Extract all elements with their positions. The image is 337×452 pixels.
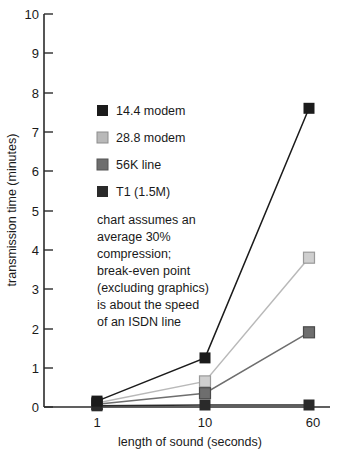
y-tick-label: 10 <box>25 7 39 22</box>
legend-swatch-t1-1-5m <box>97 186 108 197</box>
legend-swatch-14-4-modem <box>97 105 108 116</box>
note-line: compression; <box>97 247 171 261</box>
chart-canvas: 10 9 8 7 6 5 4 3 2 1 0 transmission time… <box>0 0 337 452</box>
note-line: average 30% <box>97 230 171 244</box>
legend-swatch-28-8-modem <box>97 132 108 143</box>
y-tick-label: 7 <box>32 125 39 140</box>
note-line: is about the speed <box>97 298 199 312</box>
data-point-marker <box>92 396 103 407</box>
data-point-marker <box>304 400 315 411</box>
y-axis-ticks <box>44 14 53 407</box>
transmission-time-chart: 10 9 8 7 6 5 4 3 2 1 0 transmission time… <box>0 0 337 452</box>
note-line: of an ISDN line <box>97 315 181 329</box>
y-tick-label: 0 <box>32 400 39 415</box>
data-point-marker <box>200 376 211 387</box>
y-axis-tick-labels: 10 9 8 7 6 5 4 3 2 1 0 <box>25 7 39 415</box>
data-point-marker <box>304 252 315 263</box>
y-tick-label: 8 <box>32 86 39 101</box>
y-tick-label: 2 <box>32 322 39 337</box>
legend-label-14-4-modem: 14.4 modem <box>116 104 185 118</box>
data-point-marker <box>200 388 211 399</box>
x-tick-label: 60 <box>306 415 320 430</box>
x-tick-label: 10 <box>198 415 212 430</box>
note-line: chart assumes an <box>97 213 196 227</box>
y-tick-label: 5 <box>32 204 39 219</box>
data-point-marker <box>200 400 211 411</box>
y-tick-label: 9 <box>32 46 39 61</box>
x-axis-tick-labels: 1 10 60 <box>93 415 320 430</box>
y-tick-label: 3 <box>32 282 39 297</box>
x-axis-title: length of sound (seconds) <box>118 435 262 449</box>
chart-legend: 14.4 modem 28.8 modem 56K line T1 (1.5M) <box>97 104 185 199</box>
data-point-marker <box>200 352 211 363</box>
legend-label-28-8-modem: 28.8 modem <box>116 131 185 145</box>
y-axis-title: transmission time (minutes) <box>5 134 19 287</box>
legend-label-56k-line: 56K line <box>116 158 161 172</box>
note-line: break-even point <box>97 264 191 278</box>
y-tick-label: 1 <box>32 361 39 376</box>
y-tick-label: 4 <box>32 243 39 258</box>
legend-swatch-56k-line <box>97 159 108 170</box>
data-point-marker <box>304 327 315 338</box>
legend-label-t1-1-5m: T1 (1.5M) <box>116 185 170 199</box>
x-tick-label: 1 <box>93 415 100 430</box>
y-tick-label: 6 <box>32 164 39 179</box>
chart-annotation-note: chart assumes an average 30% compression… <box>97 213 209 329</box>
note-line: (excluding graphics) <box>97 281 209 295</box>
data-point-marker <box>304 103 315 114</box>
